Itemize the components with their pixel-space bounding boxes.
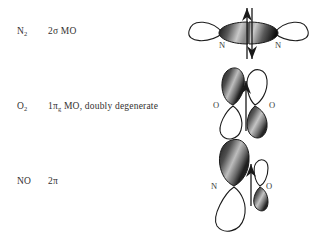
- n2-electron-arrow-down: [247, 8, 257, 59]
- row-description-n2: 2σ MO: [48, 26, 77, 36]
- mo-diagram-figure: N2 2σ MO O2 1πg MO, doubly degenerate NO…: [0, 0, 327, 238]
- no-left-lobe-bottom-empty: [216, 187, 246, 231]
- diagram-no-pi: [216, 139, 268, 231]
- atom-label-no-right: O: [266, 181, 272, 191]
- row-formula-o2: O2: [17, 101, 28, 112]
- n2-outer-lobe-left: [189, 22, 223, 40]
- row-formula-o2-symbol: O: [17, 101, 24, 111]
- row-formula-n2-subscript: 2: [24, 30, 27, 37]
- row-description-n2-text: 2σ MO: [48, 26, 77, 36]
- row-formula-o2-subscript: 2: [24, 105, 27, 112]
- o2-electron-arrow-up: [241, 81, 251, 131]
- row-formula-n2: N2: [17, 26, 28, 37]
- o2-left-lobe-top-shaded: [222, 68, 244, 105]
- atom-label-n2-right: N: [275, 40, 281, 50]
- o2-right-lobe-bottom-shaded: [247, 106, 267, 138]
- n2-electron-arrow-up: [242, 8, 252, 59]
- row-description-no: 2π: [48, 176, 58, 186]
- diagram-n2-sigma: [189, 8, 309, 59]
- row-formula-n2-symbol: N: [17, 26, 24, 36]
- atom-label-o2-right: O: [269, 100, 275, 110]
- row-formula-no-symbol: NO: [17, 176, 31, 186]
- no-left-lobe-top-shaded: [219, 139, 249, 186]
- n2-outer-lobe-right: [274, 22, 308, 40]
- n2-bonding-lobe-right: [249, 22, 278, 44]
- row-description-o2-suffix: MO, doubly degenerate: [61, 101, 158, 111]
- atom-label-no-left: N: [211, 181, 217, 191]
- o2-left-lobe-bottom-empty: [220, 106, 242, 139]
- atom-label-o2-left: O: [213, 100, 219, 110]
- row-formula-no: NO: [17, 176, 31, 186]
- no-electron-arrow-up: [246, 164, 256, 206]
- o2-right-lobe-top-empty: [247, 70, 267, 105]
- diagram-o2-pi: [220, 68, 267, 139]
- atom-label-n2-left: N: [219, 40, 225, 50]
- row-description-no-text: 2π: [48, 176, 58, 186]
- row-description-o2: 1πg MO, doubly degenerate: [48, 101, 158, 112]
